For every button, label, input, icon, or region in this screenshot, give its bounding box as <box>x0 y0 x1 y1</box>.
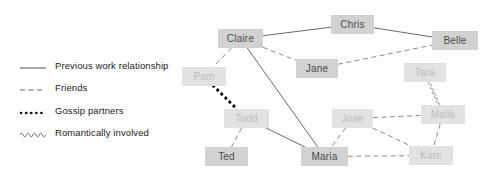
node-label: Belle <box>443 35 466 46</box>
node-todd[interactable]: Todd <box>224 109 269 128</box>
edge-maria-kate <box>348 156 409 157</box>
edge-chris-belle <box>374 28 432 37</box>
edge-tara-malik <box>428 82 439 105</box>
node-tara[interactable]: Tara <box>404 63 446 82</box>
node-jose[interactable]: Jose <box>332 109 373 128</box>
edge-jane-belle <box>338 45 432 64</box>
edge-claire-pam <box>213 48 231 67</box>
node-label: Pam <box>193 71 214 82</box>
edge-jose-malik <box>373 115 421 117</box>
edge-pam-todd <box>214 86 237 109</box>
node-label: Jose <box>342 113 364 124</box>
node-claire[interactable]: Claire <box>218 29 263 48</box>
node-label: Tara <box>415 67 435 78</box>
node-maria[interactable]: Maria <box>301 147 348 166</box>
edge-claire-jane <box>263 47 296 60</box>
node-chris[interactable]: Chris <box>331 15 374 34</box>
node-label: Chris <box>340 19 364 30</box>
node-label: Todd <box>235 113 258 124</box>
node-label: Ted <box>218 151 235 162</box>
node-label: Jane <box>306 63 329 74</box>
node-ted[interactable]: Ted <box>205 147 248 166</box>
network-diagram: Previous work relationship Friends Gossi… <box>0 0 492 184</box>
edge-jose-maria <box>332 128 346 147</box>
node-label: Malik <box>431 109 455 120</box>
edge-todd-ted <box>232 128 242 147</box>
node-label: Kate <box>420 150 441 161</box>
node-malik[interactable]: Malik <box>421 105 465 124</box>
edge-todd-maria <box>266 128 305 147</box>
node-label: Claire <box>227 33 254 44</box>
node-kate[interactable]: Kate <box>409 146 453 165</box>
edge-jose-kate <box>373 128 411 146</box>
node-label: Maria <box>311 151 337 162</box>
node-jane[interactable]: Jane <box>296 59 338 78</box>
edge-malik-kate <box>434 124 440 146</box>
node-belle[interactable]: Belle <box>432 31 478 50</box>
edge-claire-chris <box>263 27 331 35</box>
node-pam[interactable]: Pam <box>182 67 226 86</box>
